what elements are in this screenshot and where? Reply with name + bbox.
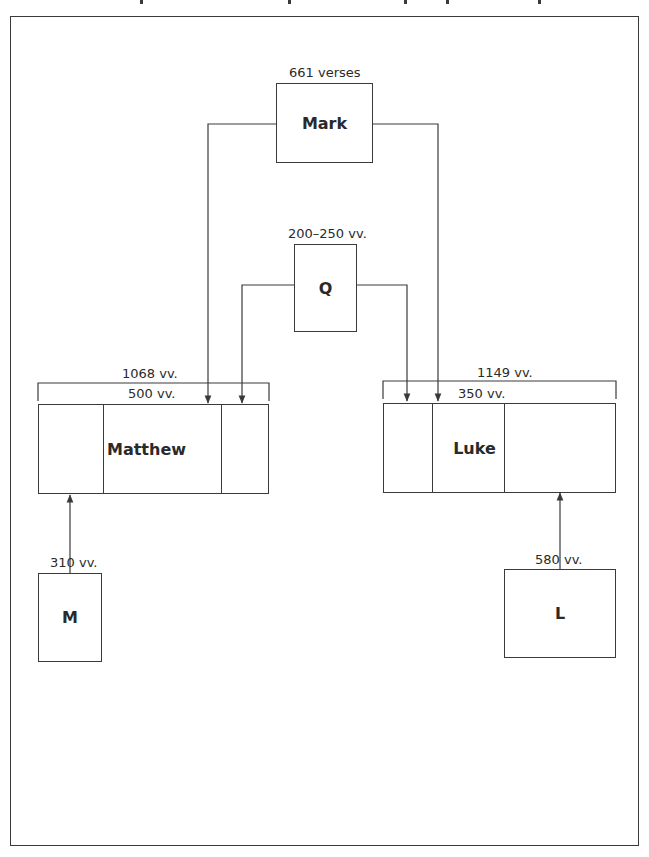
- m-label: M: [62, 608, 78, 627]
- q-box: Q: [294, 244, 357, 332]
- luke-divider-left: [432, 404, 433, 492]
- matthew-box: Matthew: [38, 404, 269, 494]
- mark-count-label: 661 verses: [289, 66, 361, 79]
- matthew-divider-right: [221, 405, 222, 493]
- matthew-total-label: 1068 vv.: [122, 367, 178, 380]
- l-box: L: [504, 569, 616, 658]
- edge-q-luke: [357, 285, 407, 401]
- luke-shared-label: 350 vv.: [458, 387, 505, 400]
- luke-label: Luke: [453, 439, 496, 458]
- mark-box: Mark: [276, 83, 373, 163]
- q-count-label: 200–250 vv.: [288, 227, 367, 240]
- edge-mark-luke: [373, 124, 438, 401]
- mark-label: Mark: [302, 114, 347, 133]
- matthew-divider-left: [103, 405, 104, 493]
- matthew-label: Matthew: [107, 440, 186, 459]
- luke-total-label: 1149 vv.: [477, 366, 533, 379]
- m-count-label: 310 vv.: [50, 556, 97, 569]
- luke-divider-right: [504, 404, 505, 492]
- q-label: Q: [319, 279, 333, 298]
- luke-box: Luke: [383, 403, 616, 493]
- l-label: L: [555, 604, 565, 623]
- matthew-shared-label: 500 vv.: [128, 387, 175, 400]
- l-count-label: 580 vv.: [535, 553, 582, 566]
- edge-q-matthew: [242, 285, 294, 403]
- m-box: M: [38, 573, 102, 662]
